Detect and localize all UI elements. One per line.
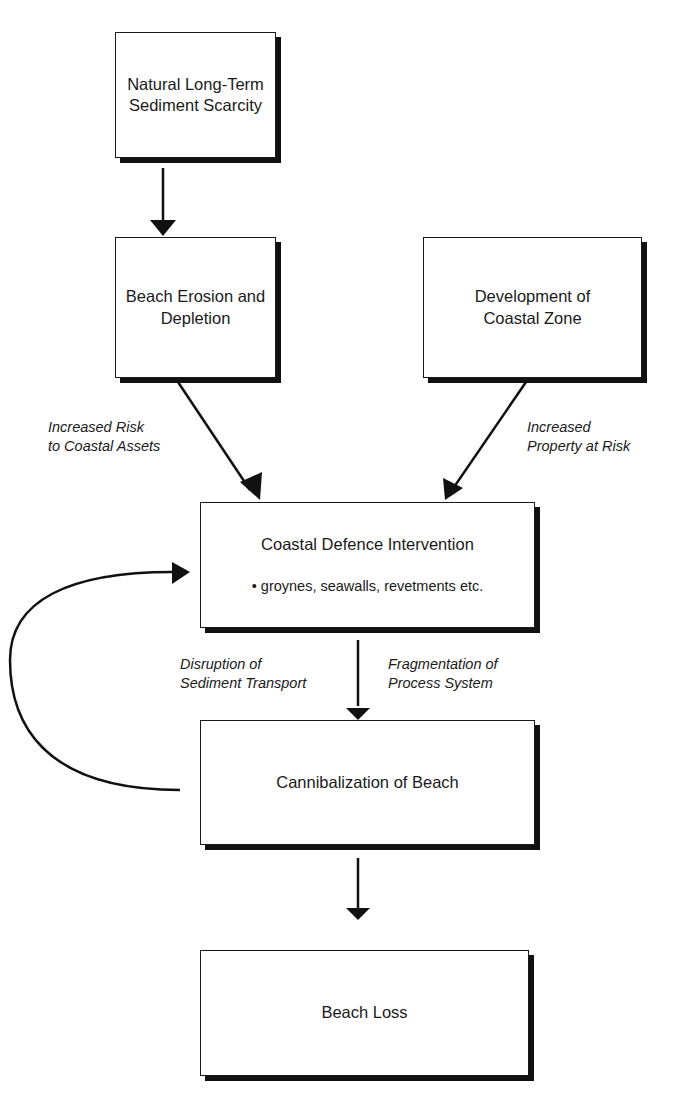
node-coastal-development: Development of Coastal Zone: [423, 237, 642, 378]
node-cannibalization: Cannibalization of Beach: [200, 720, 535, 845]
label-line: Property at Risk: [527, 437, 630, 456]
node-text-line1: Beach Erosion and: [126, 286, 265, 307]
edge-label-increased-risk: Increased Risk to Coastal Assets: [48, 418, 160, 456]
label-line: Process System: [388, 674, 498, 693]
label-line: Disruption of: [180, 655, 306, 674]
arrow-scarcity-to-erosion: [150, 168, 176, 236]
label-line: Increased Risk: [48, 418, 160, 437]
label-line: Increased: [527, 418, 630, 437]
node-sediment-scarcity: Natural Long-Term Sediment Scarcity: [115, 32, 276, 158]
edge-label-property-risk: Increased Property at Risk: [527, 418, 630, 456]
node-text-line1: Natural Long-Term: [127, 74, 264, 95]
arrow-cannibalization-to-loss: [346, 858, 370, 920]
node-bullet: • groynes, seawalls, revetments etc.: [252, 577, 484, 596]
arrow-erosion-to-defence: [178, 382, 262, 500]
node-text-line2: Depletion: [161, 308, 231, 329]
arrow-defence-to-cannibalization: [346, 640, 370, 720]
label-line: Fragmentation of: [388, 655, 498, 674]
node-beach-erosion: Beach Erosion and Depletion: [115, 237, 276, 378]
node-title: Coastal Defence Intervention: [261, 534, 474, 555]
node-text-line2: Sediment Scarcity: [129, 95, 262, 116]
label-line: to Coastal Assets: [48, 437, 160, 456]
feedback-loop-arrow: [10, 562, 190, 790]
node-coastal-defence: Coastal Defence Intervention • groynes, …: [200, 502, 535, 628]
node-title: Cannibalization of Beach: [276, 772, 459, 793]
edge-label-fragmentation: Fragmentation of Process System: [388, 655, 498, 693]
node-title: Beach Loss: [321, 1002, 407, 1023]
arrow-development-to-defence: [443, 382, 526, 500]
node-text-line2: Coastal Zone: [483, 308, 581, 329]
node-beach-loss: Beach Loss: [200, 950, 529, 1076]
edge-label-disruption: Disruption of Sediment Transport: [180, 655, 306, 693]
label-line: Sediment Transport: [180, 674, 306, 693]
node-text-line1: Development of: [475, 286, 591, 307]
